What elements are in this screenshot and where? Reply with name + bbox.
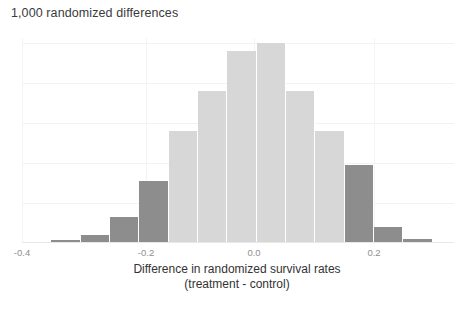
histogram-bar: [257, 43, 286, 243]
bars-layer: [0, 38, 474, 243]
histogram-bar: [110, 217, 139, 243]
histogram-bar: [345, 165, 374, 243]
x-tick-label: 0.0: [247, 247, 260, 258]
histogram-chart: 1,000 randomized differences -0.4 -0.2 0…: [0, 0, 474, 311]
histogram-bar: [139, 181, 168, 243]
x-axis-subtitle: (treatment - control): [0, 277, 474, 291]
histogram-bar: [198, 91, 227, 243]
x-tick-label: -0.4: [14, 247, 30, 258]
histogram-bar: [169, 131, 198, 243]
histogram-bar: [227, 51, 256, 243]
x-axis-line: [22, 242, 454, 243]
chart-title: 1,000 randomized differences: [11, 6, 178, 20]
histogram-bar: [286, 91, 315, 243]
histogram-bar: [374, 227, 403, 243]
plot-area: [0, 38, 474, 243]
x-tick-label: 0.2: [367, 247, 380, 258]
x-tick-label: -0.2: [138, 247, 154, 258]
x-axis-title: Difference in randomized survival rates: [0, 262, 474, 276]
histogram-bar: [315, 131, 344, 243]
